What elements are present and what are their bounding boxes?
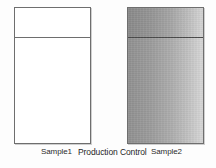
figure-canvas: Sample1 Production Control Sample2 [0,0,216,168]
sample1-caption: Sample1 [41,147,72,157]
sample1-main-field [15,38,90,143]
sample2-caption: Sample2 [151,147,182,157]
sample2-top-rail [128,8,203,37]
sample1-top-rail [15,8,90,37]
sample1-panel [14,7,91,144]
sample2-panel [127,7,204,144]
caption-row: Sample1 Production Control Sample2 [0,147,216,160]
production-control-caption: Production Control [78,147,147,157]
sample2-main-field [128,38,203,143]
